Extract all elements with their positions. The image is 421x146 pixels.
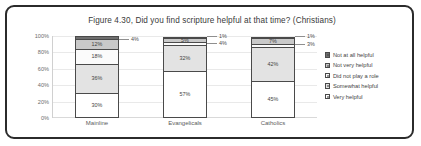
y-axis: 0% 20% 40% 60% 80% 100% (23, 36, 49, 118)
segment-evangelicals-somewhat-helpful[interactable]: 32% (163, 45, 207, 71)
segment-value: 30% (92, 103, 103, 108)
legend-item-somewhat-helpful[interactable]: Somewhat helpful (325, 83, 417, 89)
x-label-mainline: Mainline (52, 120, 142, 126)
legend-swatch-icon (325, 52, 330, 57)
legend-item-very-helpful[interactable]: Very helpful (325, 94, 417, 100)
callout-evangelicals-did-not-play-a-role: 4% (219, 40, 227, 46)
segment-evangelicals-not-at-all-helpful[interactable]: 1% (163, 37, 207, 38)
legend-label: Somewhat helpful (333, 83, 378, 89)
segment-value: 36% (92, 76, 103, 81)
segment-evangelicals-very-helpful[interactable]: 57% (163, 71, 207, 118)
segment-mainline-did-not-play-a-role[interactable]: 18% (75, 49, 119, 64)
legend-label: Very helpful (333, 94, 363, 100)
y-tick-60: 60% (25, 66, 49, 72)
segment-value: 42% (268, 62, 279, 67)
segment-catholics-very-helpful[interactable]: 45% (251, 81, 295, 118)
segment-value: 18% (92, 54, 103, 59)
callout-leader-mainline-not-at-all (119, 39, 129, 40)
callout-leader-catholics-not-at-all (295, 36, 305, 37)
bar-mainline[interactable]: 30% 36% 18% 12% 4% (75, 36, 119, 118)
segment-mainline-not-very-helpful[interactable]: 12% (75, 39, 119, 49)
callout-leader-evangelicals-not-at-all (207, 36, 217, 37)
legend-swatch-icon (325, 94, 330, 99)
legend-swatch-icon (325, 73, 330, 78)
segment-catholics-did-not-play-a-role[interactable]: 3% (251, 44, 295, 46)
segment-mainline-not-at-all-helpful[interactable]: 4% (75, 36, 119, 39)
segment-value: 45% (268, 97, 279, 102)
callout-catholics-did-not-play-a-role: 3% (307, 41, 315, 47)
y-tick-80: 80% (25, 49, 49, 55)
x-label-catholics: Catholics (228, 120, 318, 126)
chart-frame: Figure 4.30, Did you find scripture help… (5, 5, 414, 139)
segment-catholics-not-very-helpful[interactable]: 7% (251, 38, 295, 44)
legend-label: Not very helpful (333, 62, 373, 68)
legend-item-not-very-helpful[interactable]: Not very helpful (325, 62, 417, 68)
chart-legend: Not at all helpful Not very helpful Did … (325, 52, 417, 104)
segment-value: 5% (181, 38, 189, 43)
plot-area: 30% 36% 18% 12% 4% 4% 57% 32% (52, 36, 317, 118)
segment-mainline-somewhat-helpful[interactable]: 36% (75, 64, 119, 94)
bar-catholics[interactable]: 45% 42% 3% 7% 1% (251, 36, 295, 118)
legend-item-did-not-play-a-role[interactable]: Did not play a role (325, 73, 417, 79)
segment-mainline-very-helpful[interactable]: 30% (75, 93, 119, 118)
segment-evangelicals-not-very-helpful[interactable]: 5% (163, 38, 207, 42)
y-tick-20: 20% (25, 99, 49, 105)
legend-swatch-icon (325, 63, 330, 68)
bar-evangelicals[interactable]: 57% 32% 4% 5% 1% (163, 36, 207, 118)
x-label-evangelicals: Evangelicals (140, 120, 230, 126)
chart-title: Figure 4.30, Did you find scripture help… (47, 16, 377, 25)
legend-swatch-icon (325, 83, 330, 88)
callout-evangelicals-not-at-all-helpful: 1% (219, 33, 227, 39)
segment-catholics-not-at-all-helpful[interactable]: 1% (251, 37, 295, 38)
segment-value: 57% (180, 92, 191, 97)
callout-leader-evangelicals-no-role (207, 43, 217, 44)
callout-catholics-not-at-all-helpful: 1% (307, 33, 315, 39)
segment-value: 12% (92, 42, 103, 47)
legend-item-not-at-all-helpful[interactable]: Not at all helpful (325, 52, 417, 58)
segment-value: 32% (180, 56, 191, 61)
segment-value: 7% (269, 39, 277, 44)
y-tick-0: 0% (25, 115, 49, 121)
legend-label: Not at all helpful (333, 52, 374, 58)
segment-catholics-somewhat-helpful[interactable]: 42% (251, 47, 295, 81)
legend-label: Did not play a role (333, 73, 379, 79)
y-axis-line (52, 36, 53, 118)
y-tick-100: 100% (25, 33, 49, 39)
callout-leader-catholics-no-role (295, 44, 305, 45)
callout-mainline-not-at-all-helpful: 4% (131, 36, 139, 42)
y-tick-40: 40% (25, 82, 49, 88)
